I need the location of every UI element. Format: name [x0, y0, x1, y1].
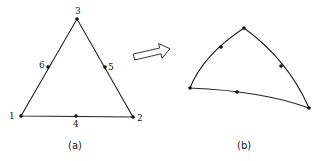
triangle-element-edges [21, 19, 133, 117]
node-label-4: 4 [73, 119, 79, 129]
panel-b: (b) [188, 26, 311, 151]
node-1 [19, 114, 23, 118]
diagram-canvas: 3 6 5 1 2 4 (a) (b) [0, 0, 323, 161]
node-5 [103, 65, 107, 69]
panel-a: 3 6 5 1 2 4 (a) [9, 6, 143, 151]
curved-edge-3-2 [244, 28, 309, 108]
node-b-2 [307, 106, 311, 110]
node-label-6: 6 [39, 60, 45, 70]
node-b-1 [188, 86, 192, 90]
node-label-3: 3 [75, 6, 81, 16]
node-label-1: 1 [9, 111, 15, 121]
node-6 [46, 65, 50, 69]
curved-edge-1-3 [190, 28, 244, 88]
node-b-6 [219, 45, 223, 49]
node-b-4 [235, 90, 239, 94]
caption-b: (b) [237, 140, 251, 151]
curved-edge-1-2 [190, 88, 309, 108]
node-4 [74, 114, 78, 118]
caption-a: (a) [68, 140, 82, 151]
node-b-3 [242, 26, 246, 30]
node-2 [131, 115, 135, 119]
node-b-5 [279, 64, 283, 68]
node-label-5: 5 [108, 62, 114, 72]
node-label-2: 2 [137, 113, 143, 123]
hollow-arrow-right-icon [132, 41, 171, 64]
node-3 [75, 17, 79, 21]
